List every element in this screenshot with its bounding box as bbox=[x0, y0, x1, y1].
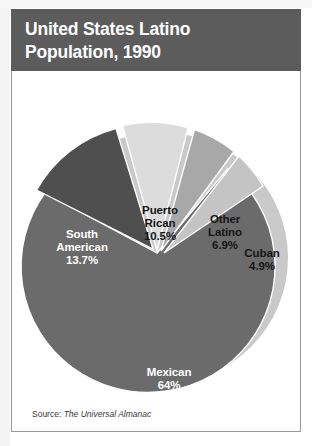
pie-label-puerto-rican-name-1: Puerto bbox=[127, 204, 193, 217]
pie-label-puerto-rican-value: 10.5% bbox=[127, 230, 193, 243]
pie-label-south-american-name-1: South bbox=[39, 228, 125, 241]
source-prefix: Source: bbox=[32, 409, 61, 419]
pie-label-cuban-name: Cuban bbox=[233, 247, 291, 260]
pie-label-other-latino-name-2: Latino bbox=[197, 226, 253, 239]
pie-label-south-american: South American 13.7% bbox=[39, 228, 125, 266]
pie-label-south-american-name-2: American bbox=[39, 241, 125, 254]
page-top-gutter bbox=[0, 0, 312, 8]
chart-page: United States Latino Population, 1990 So… bbox=[0, 0, 312, 446]
pie-label-mexican: Mexican 64% bbox=[126, 366, 212, 392]
pie-label-other-latino-name-1: Other bbox=[197, 213, 253, 226]
chart-title-bar: United States Latino Population, 1990 bbox=[11, 9, 301, 71]
source-line: Source: The Universal Almanac bbox=[32, 409, 151, 419]
pie-label-puerto-rican-name-2: Rican bbox=[127, 217, 193, 230]
pie-chart: South American 13.7% Puerto Rican 10.5% … bbox=[11, 71, 301, 401]
chart-title-line-2: Population, 1990 bbox=[25, 41, 301, 64]
pie-label-south-american-value: 13.7% bbox=[39, 254, 125, 267]
pie-label-puerto-rican: Puerto Rican 10.5% bbox=[127, 204, 193, 242]
pie-label-cuban-value: 4.9% bbox=[233, 260, 291, 273]
pie-label-cuban: Cuban 4.9% bbox=[233, 247, 291, 273]
chart-title-line-1: United States Latino bbox=[25, 18, 301, 41]
pie-label-mexican-value: 64% bbox=[126, 379, 212, 392]
source-title: The Universal Almanac bbox=[64, 409, 152, 419]
page-left-gutter bbox=[0, 0, 10, 446]
pie-label-other-latino: Other Latino 6.9% bbox=[197, 213, 253, 251]
pie-label-mexican-name: Mexican bbox=[126, 366, 212, 379]
